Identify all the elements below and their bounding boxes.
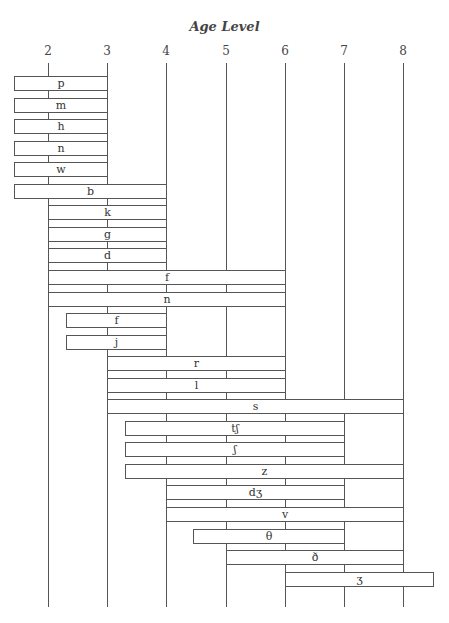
range-bar: h — [14, 119, 108, 134]
x-tick-label: 7 — [334, 44, 354, 58]
range-bar: z — [125, 464, 404, 479]
range-bar: n — [48, 292, 286, 307]
range-bar: w — [14, 162, 108, 177]
x-tick-label: 2 — [38, 44, 58, 58]
gridline-7 — [344, 63, 345, 607]
range-bar: g — [48, 227, 167, 242]
range-bar: r — [107, 356, 286, 371]
range-bar: b — [14, 184, 167, 199]
range-bar: v — [166, 507, 404, 522]
range-bar: tʃ — [125, 421, 345, 436]
range-bar: ʃ — [125, 442, 345, 457]
x-tick-label: 3 — [97, 44, 117, 58]
range-bar: θ — [193, 529, 345, 544]
chart-title: Age Level — [0, 19, 449, 34]
range-bar: m — [14, 98, 108, 113]
x-tick-label: 5 — [216, 44, 236, 58]
gridline-8 — [403, 63, 404, 607]
x-tick-label: 6 — [275, 44, 295, 58]
gridline-6 — [285, 63, 286, 607]
range-bar: f — [48, 270, 286, 285]
range-bar: n — [14, 141, 108, 156]
range-bar: d — [48, 248, 167, 263]
range-bar: ð — [226, 550, 404, 565]
range-bar: s — [107, 399, 404, 414]
range-bar: l — [107, 378, 286, 393]
range-bar: k — [48, 205, 167, 220]
range-bar: p — [14, 76, 108, 91]
range-bar: j — [66, 335, 167, 350]
range-bar: dʒ — [166, 485, 345, 500]
x-tick-label: 8 — [393, 44, 413, 58]
gridline-5 — [226, 63, 227, 607]
range-bar: f — [66, 313, 167, 328]
x-tick-label: 4 — [156, 44, 176, 58]
range-bar: ʒ — [285, 572, 434, 587]
